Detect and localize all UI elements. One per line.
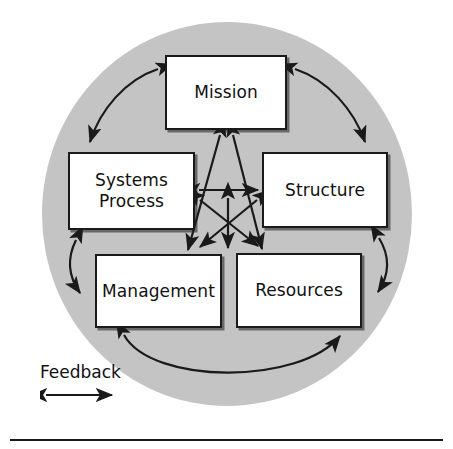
node-management[interactable]: Management	[95, 254, 222, 328]
node-mission[interactable]: Mission	[165, 55, 287, 130]
double-headed-arrow-icon	[40, 387, 120, 403]
bottom-divider-rule	[10, 439, 443, 441]
node-resources[interactable]: Resources	[236, 253, 362, 328]
node-systems-process[interactable]: Systems Process	[68, 152, 195, 230]
node-mission-label: Mission	[194, 82, 258, 103]
node-systems-process-label: Systems Process	[95, 170, 168, 211]
node-resources-label: Resources	[255, 280, 343, 301]
node-structure[interactable]: Structure	[262, 152, 388, 228]
node-management-label: Management	[102, 281, 215, 302]
node-structure-label: Structure	[285, 180, 365, 201]
diagram-canvas: Mission Systems Process Structure Manage…	[0, 0, 453, 449]
feedback-legend: Feedback	[40, 364, 121, 403]
feedback-legend-label: Feedback	[40, 364, 121, 381]
